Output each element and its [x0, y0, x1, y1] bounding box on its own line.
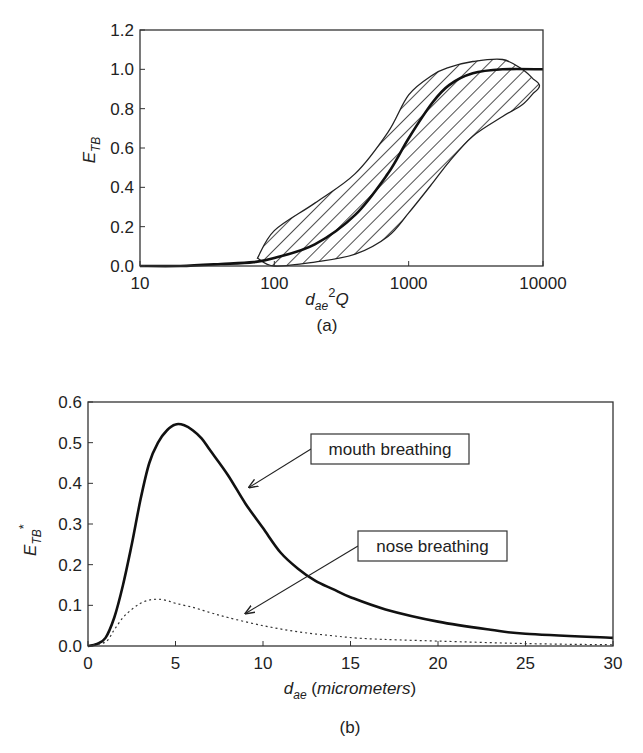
y-tick-label: 0.4	[110, 178, 134, 197]
y-tick-label: 0.8	[110, 100, 134, 119]
chart-a: 0.00.20.40.60.81.01.210100100010000dae2Q…	[80, 21, 567, 335]
y-tick-label: 0.6	[58, 393, 82, 412]
y-axis-label: ETB	[80, 137, 103, 164]
panel-label: (b)	[340, 718, 361, 737]
nose-breathing-curve	[88, 599, 613, 646]
x-tick-label: 10000	[519, 274, 566, 293]
x-axis-label: dae2Q	[305, 285, 348, 313]
x-tick-label: 20	[429, 654, 448, 673]
x-tick-label: 25	[516, 654, 535, 673]
x-tick-label: 15	[341, 654, 360, 673]
y-tick-label: 0.2	[110, 218, 134, 237]
y-tick-label: 0.5	[58, 434, 82, 453]
annotation-arrow	[249, 449, 311, 487]
annotation-arrow	[246, 546, 359, 613]
x-tick-label: 1000	[390, 274, 428, 293]
x-tick-label: 10	[254, 654, 273, 673]
x-tick-label: 100	[260, 274, 288, 293]
y-tick-label: 0.0	[58, 637, 82, 656]
hatched-band	[258, 59, 540, 266]
y-tick-label: 0.3	[58, 515, 82, 534]
x-tick-label: 5	[171, 654, 180, 673]
y-tick-label: 1.2	[110, 21, 134, 40]
chart-b: 0.00.10.20.30.40.50.6051015202530mouth b…	[16, 393, 622, 737]
y-tick-label: 1.0	[110, 60, 134, 79]
x-tick-label: 0	[83, 654, 92, 673]
x-tick-label: 30	[604, 654, 623, 673]
figure-canvas: 0.00.20.40.60.81.01.210100100010000dae2Q…	[0, 0, 643, 753]
x-axis-label: dae (micrometers)	[284, 679, 416, 702]
y-axis-label: ETB*	[16, 524, 44, 556]
panel-label: (a)	[317, 316, 338, 335]
y-tick-label: 0.1	[58, 596, 82, 615]
annotation-label: nose breathing	[376, 537, 488, 556]
x-tick-label: 10	[131, 274, 150, 293]
y-tick-label: 0.2	[58, 556, 82, 575]
y-tick-label: 0.6	[110, 139, 134, 158]
annotation-label: mouth breathing	[329, 440, 452, 459]
y-tick-label: 0.4	[58, 474, 82, 493]
